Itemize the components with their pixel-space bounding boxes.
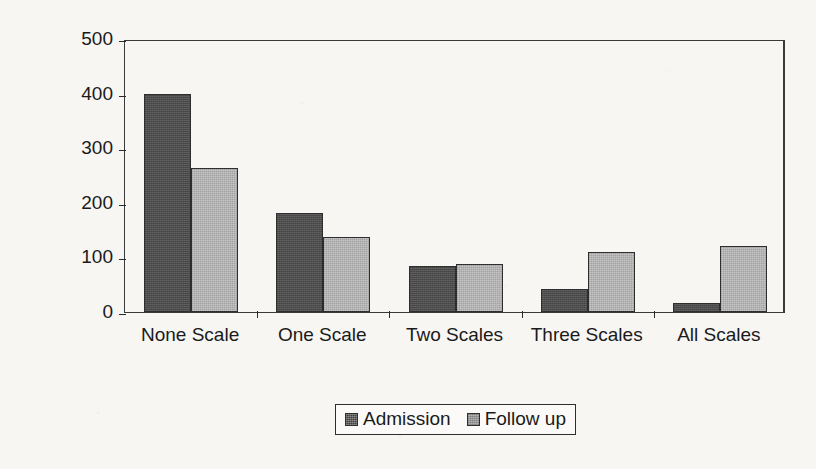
legend-entry-follow-up[interactable]: Follow up — [467, 408, 566, 430]
y-axis-tick-label: 0 — [57, 301, 113, 323]
x-axis-tick-mark — [257, 311, 258, 318]
legend-label: Follow up — [485, 408, 566, 430]
y-axis-tick-mark — [119, 150, 126, 151]
legend-swatch-icon — [345, 413, 358, 426]
y-axis-tick-label: 200 — [57, 192, 113, 214]
chart-legend: AdmissionFollow up — [335, 404, 576, 435]
y-axis-tick-mark — [119, 205, 126, 206]
x-axis-category-labels: None ScaleOne ScaleTwo ScalesThree Scale… — [124, 322, 785, 392]
legend-label: Admission — [363, 408, 451, 430]
x-axis-category-label: All Scales — [653, 322, 785, 347]
legend-entry-admission[interactable]: Admission — [345, 408, 451, 430]
bar-admission-all-scales — [673, 303, 720, 312]
y-axis-tick-mark — [119, 96, 126, 97]
bar-follow-up-all-scales — [720, 246, 767, 312]
legend-swatch-icon — [467, 413, 480, 426]
bar-series-group — [125, 41, 783, 312]
x-axis-tick-mark — [389, 311, 390, 318]
bar-follow-up-two-scales — [456, 264, 503, 312]
bar-follow-up-none-scale — [191, 168, 238, 312]
bar-admission-two-scales — [409, 266, 456, 312]
x-axis-category-label: Three Scales — [521, 322, 653, 347]
x-axis-tick-mark — [522, 311, 523, 318]
bar-admission-none-scale — [144, 94, 191, 312]
chart-figure: Number of patients 5004003002001000 None… — [0, 0, 816, 469]
x-axis-category-label: One Scale — [256, 322, 388, 347]
plot-area — [124, 40, 785, 313]
y-axis-tick-label: 400 — [57, 83, 113, 105]
x-axis-tick-mark — [654, 311, 655, 318]
bar-admission-three-scales — [541, 289, 588, 312]
bar-follow-up-three-scales — [588, 252, 635, 312]
y-axis-tick-label: 300 — [57, 137, 113, 159]
y-axis-tick-mark — [119, 314, 126, 315]
y-axis-tick-labels: 5004003002001000 — [57, 0, 113, 469]
bar-follow-up-one-scale — [323, 237, 370, 312]
x-axis-category-label: None Scale — [124, 322, 256, 347]
y-axis-tick-mark — [119, 259, 126, 260]
bar-admission-one-scale — [276, 213, 323, 312]
y-axis-tick-label: 500 — [57, 28, 113, 50]
y-axis-tick-mark — [119, 41, 126, 42]
y-axis-tick-label: 100 — [57, 246, 113, 268]
x-axis-category-label: Two Scales — [388, 322, 520, 347]
